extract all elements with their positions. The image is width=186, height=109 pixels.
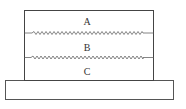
layered-blocks-diagram: A B C — [0, 0, 186, 109]
layer-label-b: B — [84, 42, 91, 53]
layer-label-c: C — [84, 66, 91, 77]
layer-label-a: A — [83, 16, 91, 27]
base-block — [6, 81, 174, 100]
rough-interface-b-c — [25, 56, 154, 59]
rough-interface-a-b — [25, 32, 154, 35]
